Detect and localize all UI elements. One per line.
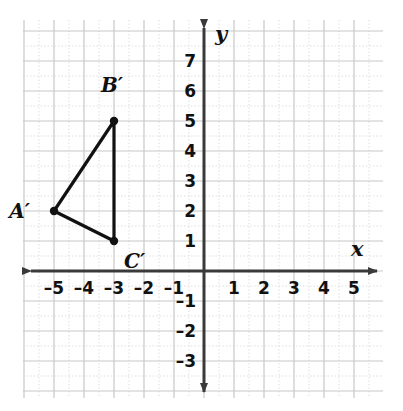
y-tick-label: 6	[184, 83, 196, 100]
point-label-C-prime: C′	[124, 251, 145, 271]
x-axis-label: x	[351, 238, 364, 259]
y-tick-label: 4	[184, 143, 196, 160]
y-tick-label: 5	[184, 113, 196, 130]
x-tick-label: 5	[348, 280, 360, 297]
point-label-A-prime: A′	[9, 201, 30, 221]
x-tick-label: –3	[104, 280, 124, 297]
x-tick-label: –2	[134, 280, 154, 297]
x-tick-label: 1	[228, 280, 240, 297]
x-tick-label: 2	[258, 280, 270, 297]
y-tick-label: –3	[176, 353, 196, 370]
y-tick-label: 7	[184, 53, 196, 70]
y-tick-label: –2	[176, 323, 196, 340]
y-tick-label: 3	[184, 173, 196, 190]
y-tick-label: 2	[184, 203, 196, 220]
x-tick-label: 4	[318, 280, 330, 297]
x-tick-label: –5	[44, 280, 64, 297]
x-tick-label: –4	[74, 280, 94, 297]
y-tick-label: 1	[184, 233, 196, 250]
y-axis-label: y	[215, 23, 227, 44]
axis-lines	[31, 28, 377, 392]
x-tick-label: 3	[288, 280, 300, 297]
coordinate-plane-graphic	[0, 0, 403, 411]
coordinate-plane-figure: –5–4–3–2–1123457654321–1–2–3 x y A′B′C′	[0, 0, 403, 411]
point-label-B-prime: B′	[101, 75, 123, 95]
y-tick-label: –1	[176, 293, 196, 310]
